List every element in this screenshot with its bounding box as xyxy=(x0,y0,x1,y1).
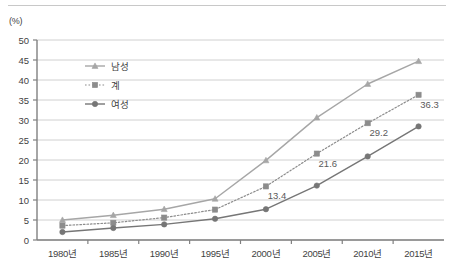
data-point-여성-2 xyxy=(161,222,166,227)
data-point-계-6 xyxy=(365,121,370,126)
gridline-group xyxy=(37,40,444,240)
x-tick-label: 1980년 xyxy=(48,248,77,259)
y-axis xyxy=(33,40,37,240)
data-point-계-1 xyxy=(111,220,116,225)
data-point-계-2 xyxy=(162,215,167,220)
data-label-group: 13.421.629.236.3 xyxy=(268,99,439,202)
x-tick-label: 1985년 xyxy=(99,248,128,259)
x-tick-label: 1995년 xyxy=(201,248,230,259)
y-tick-label: 30 xyxy=(18,115,29,126)
x-tick-label: 1990년 xyxy=(150,248,179,259)
data-label: 13.4 xyxy=(268,190,287,201)
y-tick-label: 25 xyxy=(18,135,29,146)
data-point-여성-1 xyxy=(111,225,116,230)
legend-label: 남성 xyxy=(111,61,129,72)
data-point-여성-6 xyxy=(365,154,370,159)
data-label: 29.2 xyxy=(369,127,388,138)
y-tick-label: 5 xyxy=(24,215,29,226)
y-tick-label: 10 xyxy=(18,195,29,206)
data-point-여성-3 xyxy=(212,216,217,221)
x-tick-label: 2015년 xyxy=(404,248,433,259)
x-tick-label: 2010년 xyxy=(353,248,382,259)
y-tick-label-group: 05101520253035404550 xyxy=(18,35,29,246)
chart-legend: 남성계여성 xyxy=(85,61,129,110)
x-tick-label: 2005년 xyxy=(302,248,331,259)
x-tick-label: 2000년 xyxy=(252,248,281,259)
data-point-계-3 xyxy=(212,207,217,212)
line-chart-plot: 05101520253035404550 1980년1985년1990년1995… xyxy=(0,0,452,273)
data-point-여성-5 xyxy=(314,183,319,188)
data-point-남성-7 xyxy=(416,58,422,64)
data-label: 21.6 xyxy=(319,158,338,169)
data-point-남성-5 xyxy=(314,115,320,121)
data-point-계-4 xyxy=(263,184,268,189)
legend-marker-여성 xyxy=(92,101,97,106)
y-tick-label: 35 xyxy=(18,95,29,106)
data-point-계-0 xyxy=(60,223,65,228)
legend-marker-계 xyxy=(92,82,97,87)
data-point-여성-7 xyxy=(416,124,421,129)
x-axis xyxy=(37,240,444,244)
chart-page: (%) 05101520253035404550 1980년1985년1990년… xyxy=(0,0,452,273)
data-label: 36.3 xyxy=(420,99,439,110)
legend-label: 여성 xyxy=(111,99,129,110)
data-point-계-7 xyxy=(416,92,421,97)
data-point-계-5 xyxy=(314,151,319,156)
y-tick-label: 15 xyxy=(18,175,29,186)
y-tick-label: 50 xyxy=(18,35,29,46)
y-tick-label: 40 xyxy=(18,75,29,86)
y-tick-label: 0 xyxy=(24,235,29,246)
x-tick-label-group: 1980년1985년1990년1995년2000년2005년2010년2015년 xyxy=(48,248,433,259)
data-point-여성-4 xyxy=(263,207,268,212)
y-tick-label: 20 xyxy=(18,155,29,166)
legend-label: 계 xyxy=(111,80,120,91)
y-tick-label: 45 xyxy=(18,55,29,66)
data-point-여성-0 xyxy=(60,229,65,234)
